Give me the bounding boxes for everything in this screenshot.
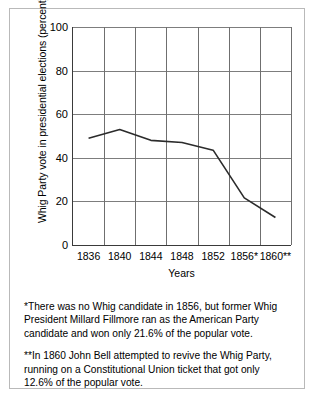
- x-tick-label: 1848: [170, 250, 193, 262]
- y-tick-label: 20: [56, 195, 68, 207]
- y-tick-label: 100: [50, 21, 68, 33]
- figure-panel: Whig Party vote in presidential election…: [9, 8, 305, 389]
- footnote-2: **In 1860 John Bell attempted to revive …: [24, 349, 290, 389]
- x-tick-label: 1860**: [260, 250, 292, 262]
- line-chart: Whig Party vote in presidential election…: [10, 9, 304, 294]
- footnotes: *There was no Whig candidate in 1856, bu…: [24, 300, 290, 398]
- y-axis-label: Whig Party vote in presidential election…: [36, 9, 48, 223]
- x-tick-label: 1852: [201, 250, 224, 262]
- y-tick-label: 0: [62, 239, 68, 251]
- x-tick-label: 1840: [108, 250, 131, 262]
- y-tick-label: 60: [56, 108, 68, 120]
- x-axis-label: Years: [72, 267, 291, 279]
- series-line: [73, 27, 291, 245]
- gridline-vertical: [291, 27, 292, 245]
- y-tick-label: 40: [56, 152, 68, 164]
- plot-area: 020406080100 183618401844184818521856*18…: [72, 27, 291, 246]
- x-tick-label: 1856*: [231, 250, 258, 262]
- x-tick-label: 1836: [77, 250, 100, 262]
- x-tick-label: 1844: [139, 250, 162, 262]
- footnote-1: *There was no Whig candidate in 1856, bu…: [24, 300, 290, 340]
- y-tick-label: 80: [56, 65, 68, 77]
